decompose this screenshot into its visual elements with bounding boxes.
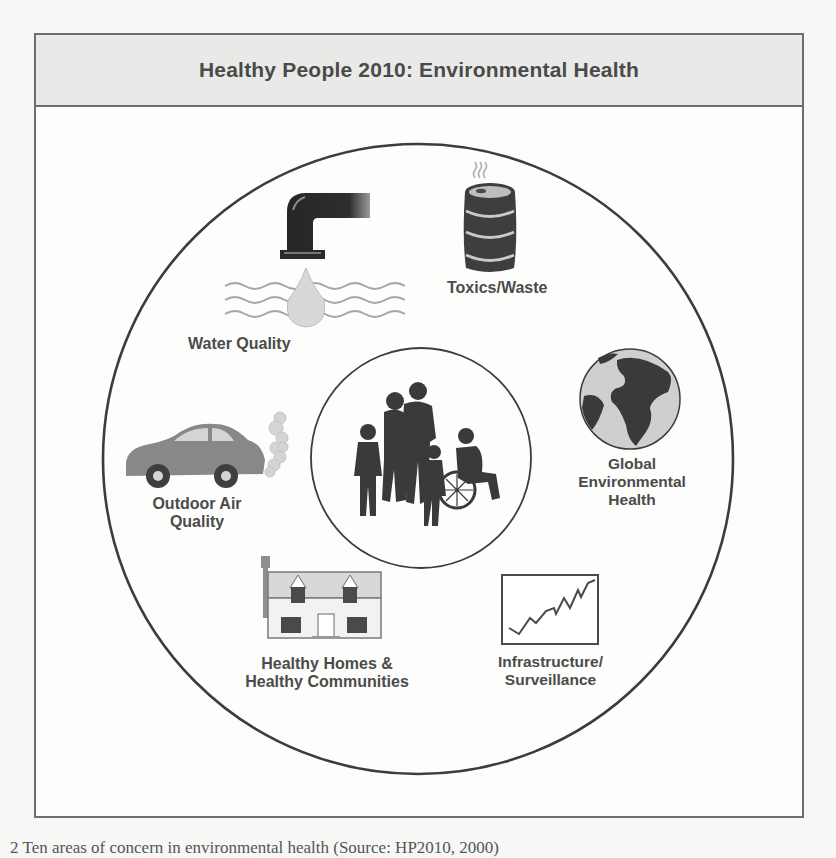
- figure-caption: 2 Ten areas of concern in environmental …: [10, 838, 499, 858]
- figure-title: Healthy People 2010: Environmental Healt…: [199, 58, 639, 82]
- topic-label-global-environmental-health: Global Environmental Health: [567, 455, 697, 509]
- figure-header: Healthy People 2010: Environmental Healt…: [36, 35, 802, 107]
- topic-label-outdoor-air-quality: Outdoor Air Quality: [137, 495, 257, 531]
- bleed-through-text: [0, 2, 836, 20]
- topic-label-water-quality: Water Quality: [188, 335, 291, 353]
- topic-label-healthy-homes: Healthy Homes & Healthy Communities: [217, 655, 437, 691]
- topic-label-toxics-waste: Toxics/Waste: [447, 279, 547, 297]
- topic-label-infrastructure-surveillance: Infrastructure/ Surveillance: [478, 653, 623, 689]
- figure-frame: Healthy People 2010: Environmental Healt…: [34, 33, 804, 818]
